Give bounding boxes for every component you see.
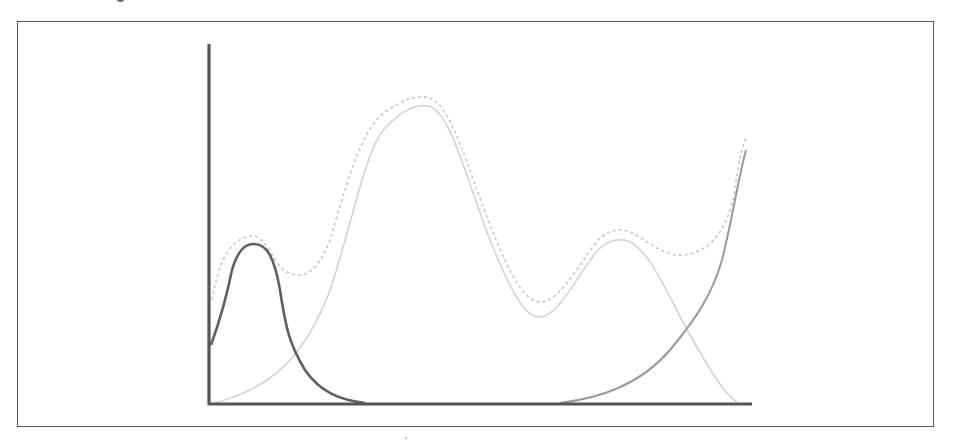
stray-mark [405, 437, 407, 439]
series-component-2-line [215, 106, 737, 403]
series-component-1-line [211, 244, 365, 403]
series-total-dotted-line [212, 97, 747, 302]
series-component-3-line [560, 150, 746, 403]
chart-plot-area [0, 0, 959, 441]
figure-canvas [0, 0, 959, 441]
